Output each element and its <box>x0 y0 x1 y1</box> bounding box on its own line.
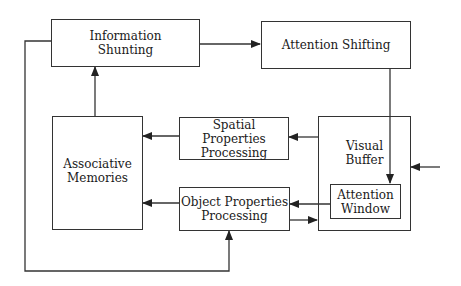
node-spatial-properties-processing: Spatial Properties Processing <box>179 117 289 160</box>
node-associative-memories: Associative Memories <box>52 116 143 230</box>
node-attention-shifting: Attention Shifting <box>261 21 411 69</box>
node-label: Information Shunting <box>89 29 161 57</box>
node-label: Associative Memories <box>63 157 131 185</box>
node-label: Visual Buffer <box>319 139 410 167</box>
node-label: Attention Window <box>337 188 394 216</box>
node-label: Object Properties Processing <box>181 195 288 223</box>
node-label: Spatial Properties Processing <box>180 118 288 160</box>
node-attention-window: Attention Window <box>330 184 401 219</box>
node-label: Attention Shifting <box>282 38 391 52</box>
node-information-shunting: Information Shunting <box>51 19 200 67</box>
node-object-properties-processing: Object Properties Processing <box>179 187 290 231</box>
